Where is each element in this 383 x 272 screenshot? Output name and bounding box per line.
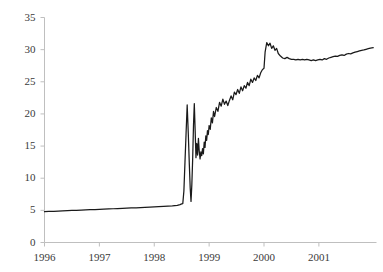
y-axis-tick-label: 10 — [0, 172, 36, 183]
x-axis-tick-label: 1996 — [15, 252, 75, 263]
y-axis-tick-label: 20 — [0, 108, 36, 119]
y-axis-tick-label: 0 — [0, 237, 36, 248]
x-axis-tick-label: 1997 — [69, 252, 129, 263]
data-line-1 — [45, 43, 374, 212]
y-axis-tick-label: 25 — [0, 76, 36, 87]
y-axis-tick-label: 30 — [0, 44, 36, 55]
y-axis-tick-label: 5 — [0, 204, 36, 215]
line-chart: 05101520253035199619971998199920002001 — [0, 0, 383, 272]
x-axis-tick-label: 1998 — [124, 252, 184, 263]
y-axis-tick-label: 15 — [0, 140, 36, 151]
chart-plot-area — [0, 0, 383, 272]
x-axis-tick-label: 2001 — [289, 252, 349, 263]
y-axis-tick-label: 35 — [0, 12, 36, 23]
x-axis-tick-label: 1999 — [179, 252, 239, 263]
x-axis-tick-label: 2000 — [234, 252, 294, 263]
